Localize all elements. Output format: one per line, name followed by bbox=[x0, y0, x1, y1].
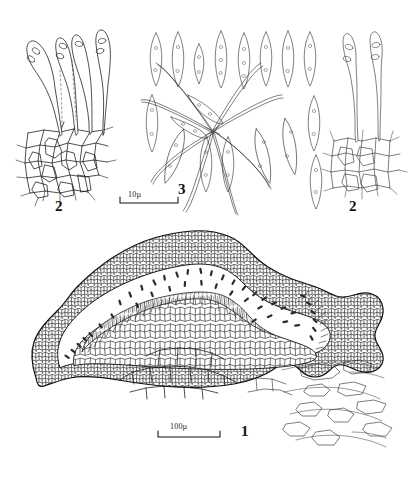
scale-bar-label-100u: 100µ bbox=[170, 423, 187, 431]
figure-label-3: 3 bbox=[178, 182, 186, 197]
plate-drawing: .ln{fill:none;stroke:#141414;stroke-widt… bbox=[0, 0, 412, 477]
figure-label-2-right: 2 bbox=[349, 199, 357, 214]
figure-2-right-drawing bbox=[322, 32, 407, 199]
scale-bar-label-10u: 10µ bbox=[128, 191, 141, 199]
figure-label-1: 1 bbox=[241, 424, 249, 439]
illustration-plate: .ln{fill:none;stroke:#141414;stroke-widt… bbox=[0, 0, 412, 477]
figure-3-drawing bbox=[141, 31, 322, 215]
scale-bar-100u bbox=[158, 431, 220, 437]
figure-2-left-drawing bbox=[16, 30, 116, 206]
figure-label-2-left: 2 bbox=[55, 199, 63, 214]
figure-1-drawing bbox=[32, 231, 392, 447]
